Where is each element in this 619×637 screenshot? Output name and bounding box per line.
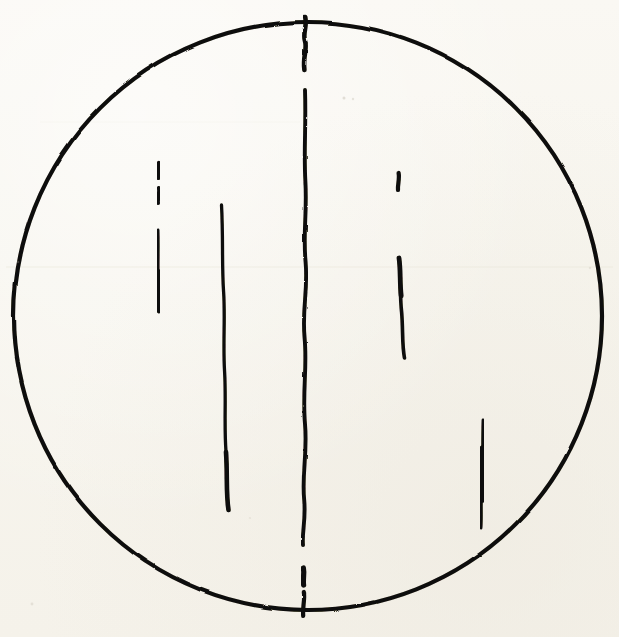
central-line-group <box>303 17 306 616</box>
right-line-head <box>399 258 401 296</box>
far-right-line-belly <box>482 448 483 500</box>
speck-e <box>589 267 591 269</box>
left-mark-cluster <box>158 163 159 312</box>
left-dash-lower <box>158 188 159 203</box>
crease-group <box>6 122 613 267</box>
plate-figure: Circular field-of-view plate with vertic… <box>0 0 619 637</box>
plate-canvas: Circular field-of-view plate with vertic… <box>0 0 619 637</box>
second-line-group <box>222 205 229 510</box>
field-of-view-circle-group <box>14 22 602 610</box>
field-of-view-circle <box>14 22 602 610</box>
second-line-thick-tail <box>226 452 229 510</box>
speck-a <box>343 97 346 100</box>
speck-c <box>17 261 20 264</box>
far-right-mark-group <box>481 420 483 528</box>
left-tapered-line-blot <box>158 272 159 310</box>
speck-f <box>249 517 251 519</box>
center-line-lower-dash-2 <box>303 592 304 616</box>
center-line-main <box>303 90 306 545</box>
speck-b <box>352 98 354 100</box>
left-dash-upper <box>158 163 159 178</box>
right-dot <box>398 173 399 190</box>
center-line-top-dash <box>304 17 306 70</box>
right-mark-cluster <box>398 173 405 358</box>
speck-d <box>31 603 34 606</box>
